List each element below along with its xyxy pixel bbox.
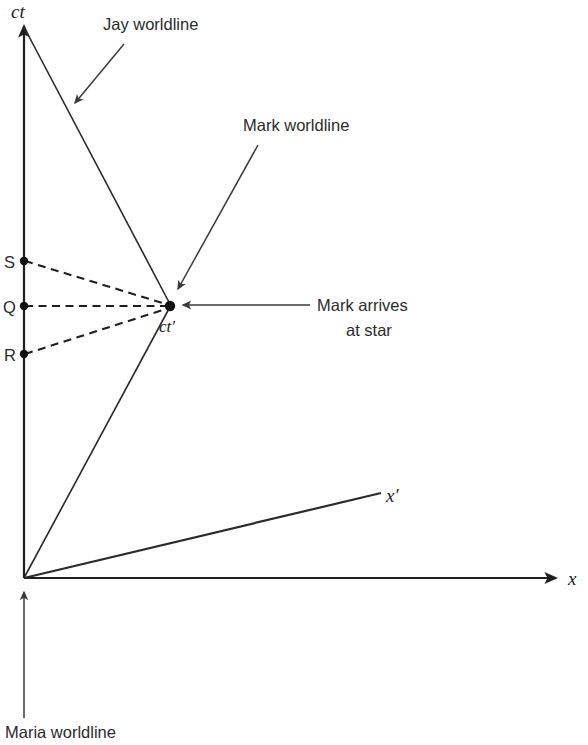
x-prime-axis-label: x′ [385, 485, 399, 506]
event-label-s: S [4, 253, 15, 271]
event-label-r: R [4, 346, 16, 364]
annotation-label-mark-worldline: Mark worldline [243, 116, 349, 134]
leader-line-jay [75, 44, 124, 103]
x-prime-axis-line [24, 493, 381, 578]
signal-line-r [25, 308, 169, 354]
jay-worldline-line [24, 27, 171, 306]
mark-worldline-line [24, 305, 171, 578]
leader-line-mark [178, 145, 258, 289]
annotation-label-jay-worldline: Jay worldline [103, 15, 198, 33]
event-dot-q [20, 302, 28, 310]
spacetime-diagram: ct x x′ ct′ S Q R Jay worldline Mark wor… [0, 0, 588, 745]
event-dot-s [20, 257, 28, 265]
event-dot-arrival [165, 301, 175, 311]
event-dot-r [20, 350, 28, 358]
diagram-canvas: ct x x′ ct′ S Q R Jay worldline Mark wor… [0, 0, 588, 745]
annotation-label-maria-worldline: Maria worldline [5, 723, 116, 741]
event-label-q: Q [3, 298, 16, 316]
ct-prime-axis-label: ct′ [159, 317, 175, 336]
annotation-label-mark-arrives-line2: at star [346, 321, 392, 339]
ct-axis-label: ct [11, 1, 25, 22]
signal-line-s [25, 261, 169, 305]
annotation-label-mark-arrives-line1: Mark arrives [317, 296, 408, 314]
x-axis-label: x [567, 568, 577, 589]
